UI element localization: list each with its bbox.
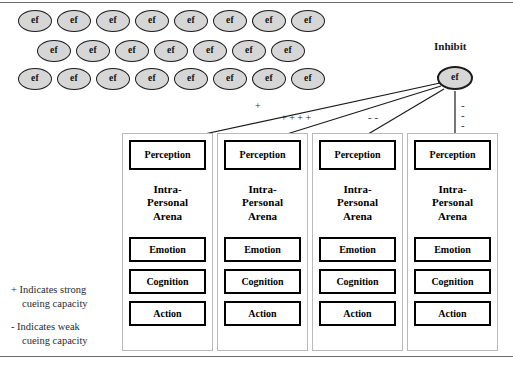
- emotion-box[interactable]: Emotion: [414, 237, 491, 262]
- legend-strong-line2: cueing capacity: [11, 297, 115, 311]
- ef-node[interactable]: ef: [57, 68, 91, 90]
- ef-node[interactable]: ef: [174, 68, 208, 90]
- bottom-divider-rule: [0, 356, 513, 357]
- sign-plus-cluster: + + + +: [281, 113, 311, 123]
- ef-node[interactable]: ef: [232, 40, 266, 62]
- arena-title-line3: Arena: [248, 210, 277, 222]
- arena-title-line1: Intra-: [343, 183, 371, 195]
- ef-node[interactable]: ef: [252, 68, 286, 90]
- arena-title-line1: Intra-: [248, 183, 276, 195]
- ef-node[interactable]: ef: [174, 10, 208, 32]
- action-box[interactable]: Action: [319, 301, 396, 326]
- arena-title: Intra- Personal Arena: [414, 183, 491, 223]
- arena-title: Intra- Personal Arena: [129, 183, 206, 223]
- ef-node[interactable]: ef: [154, 40, 188, 62]
- top-divider-rule: [0, 2, 513, 3]
- emotion-box[interactable]: Emotion: [224, 237, 301, 262]
- perception-box[interactable]: Perception: [129, 140, 206, 170]
- ef-node[interactable]: ef: [115, 40, 149, 62]
- arena-title-line2: Personal: [432, 196, 473, 208]
- emotion-box[interactable]: Emotion: [319, 237, 396, 262]
- intra-personal-arena-1: Perception Intra- Personal Arena Emotion…: [122, 133, 213, 351]
- ef-node[interactable]: ef: [135, 10, 169, 32]
- ef-node[interactable]: ef: [135, 68, 169, 90]
- legend-weak-cueing: - Indicates weak cueing capacity: [11, 320, 115, 348]
- intra-personal-arena-3: Perception Intra- Personal Arena Emotion…: [312, 133, 403, 351]
- perception-box[interactable]: Perception: [224, 140, 301, 170]
- sign-plus-single: +: [255, 101, 261, 111]
- intra-personal-arena-4: Perception Intra- Personal Arena Emotion…: [407, 133, 498, 351]
- cognition-box[interactable]: Cognition: [224, 269, 301, 294]
- ef-node[interactable]: ef: [252, 10, 286, 32]
- sign-minus-pair: - -: [368, 112, 378, 123]
- intra-personal-arena-2: Perception Intra- Personal Arena Emotion…: [217, 133, 308, 351]
- action-box[interactable]: Action: [224, 301, 301, 326]
- arena-title-line1: Intra-: [438, 183, 466, 195]
- arena-title: Intra- Personal Arena: [224, 183, 301, 223]
- arena-title-line3: Arena: [153, 210, 182, 222]
- ef-node[interactable]: ef: [291, 68, 325, 90]
- inhibit-label: Inhibit: [434, 40, 466, 52]
- arena-title-line3: Arena: [343, 210, 372, 222]
- ef-node[interactable]: ef: [193, 40, 227, 62]
- legend-weak-line1: - Indicates weak: [11, 320, 115, 334]
- ef-node[interactable]: ef: [18, 68, 52, 90]
- cognition-box[interactable]: Cognition: [319, 269, 396, 294]
- figure-canvas: efefefefefefefefefefefefefefefefefefefef…: [0, 0, 513, 368]
- cognition-box[interactable]: Cognition: [414, 269, 491, 294]
- arena-title-line2: Personal: [242, 196, 283, 208]
- ef-node[interactable]: ef: [291, 10, 325, 32]
- arena-title-line2: Personal: [337, 196, 378, 208]
- arena-title-line1: Intra-: [153, 183, 181, 195]
- sign-minus-stack-3: -: [461, 120, 465, 131]
- action-box[interactable]: Action: [414, 301, 491, 326]
- perception-box[interactable]: Perception: [414, 140, 491, 170]
- ef-node[interactable]: ef: [213, 68, 247, 90]
- ef-node[interactable]: ef: [76, 40, 110, 62]
- cognition-box[interactable]: Cognition: [129, 269, 206, 294]
- ef-node[interactable]: ef: [96, 10, 130, 32]
- ef-node[interactable]: ef: [18, 10, 52, 32]
- arena-title: Intra- Personal Arena: [319, 183, 396, 223]
- arena-title-line2: Personal: [147, 196, 188, 208]
- action-box[interactable]: Action: [129, 301, 206, 326]
- arena-title-line3: Arena: [438, 210, 467, 222]
- inhibit-ef-node[interactable]: ef: [437, 66, 473, 90]
- ef-node[interactable]: ef: [37, 40, 71, 62]
- legend-strong-cueing: + Indicates strong cueing capacity: [11, 283, 115, 311]
- legend-weak-line2: cueing capacity: [11, 334, 115, 348]
- ef-node[interactable]: ef: [96, 68, 130, 90]
- emotion-box[interactable]: Emotion: [129, 237, 206, 262]
- ef-node[interactable]: ef: [57, 10, 91, 32]
- perception-box[interactable]: Perception: [319, 140, 396, 170]
- ef-node[interactable]: ef: [213, 10, 247, 32]
- ef-node[interactable]: ef: [271, 40, 305, 62]
- legend-strong-line1: + Indicates strong: [11, 283, 115, 297]
